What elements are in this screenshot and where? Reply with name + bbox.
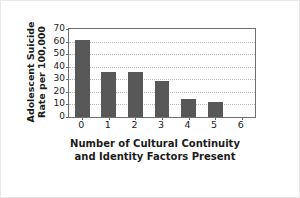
y-tick-mark (66, 67, 69, 68)
y-tick-mark (66, 29, 69, 30)
y-tick-mark (66, 42, 69, 43)
bar (101, 72, 116, 117)
x-axis-label-line-1: Number of Cultural Continuity (31, 137, 279, 150)
y-tick-label: 30 (54, 74, 65, 83)
bar (181, 99, 196, 117)
x-axis-label: Number of Cultural Continuity and Identi… (31, 137, 279, 163)
x-tick-label: 3 (158, 120, 164, 130)
y-tick-mark (66, 79, 69, 80)
bar (208, 102, 223, 117)
x-tick-label: 1 (105, 120, 111, 130)
y-tick-mark (66, 117, 69, 118)
y-tick-label: 20 (54, 86, 65, 95)
y-tick-label: 40 (54, 61, 65, 70)
x-tick-label: 0 (78, 120, 84, 130)
y-tick-mark (66, 54, 69, 55)
bar (128, 72, 143, 117)
x-axis-label-line-2: and Identity Factors Present (31, 150, 279, 163)
y-tick-mark (66, 92, 69, 93)
y-axis-tick-labels: 010203040506070 (49, 28, 65, 118)
x-tick-label: 6 (238, 120, 244, 130)
y-tick-label: 0 (59, 112, 65, 121)
bar-series (69, 29, 255, 117)
chart-figure: Adolescent Suicide Rate per 100,000 0102… (0, 0, 300, 198)
x-tick-label: 4 (185, 120, 191, 130)
plot-area (68, 28, 256, 118)
bar (75, 40, 90, 117)
y-tick-mark (66, 104, 69, 105)
bar (155, 81, 170, 117)
y-tick-label: 70 (54, 24, 65, 33)
x-tick-label: 2 (131, 120, 137, 130)
y-axis-label-line-2: Rate per 100,000 (37, 26, 48, 118)
x-tick-label: 5 (211, 120, 217, 130)
x-axis-tick-labels: 0123456 (68, 120, 256, 134)
y-tick-label: 60 (54, 36, 65, 45)
y-tick-label: 50 (54, 49, 65, 58)
y-tick-label: 10 (54, 99, 65, 108)
